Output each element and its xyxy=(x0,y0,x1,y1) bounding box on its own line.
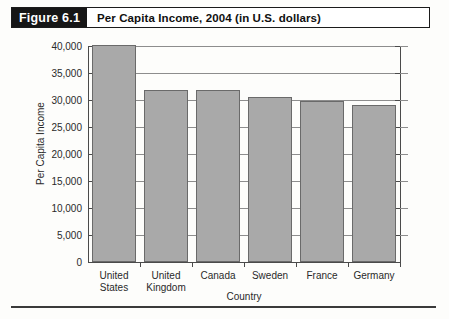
bar xyxy=(352,105,397,262)
chart-area: Per Capita Income 40,00035,00030,00025,0… xyxy=(0,30,449,288)
y-axis-tick-label: 35,000 xyxy=(4,68,82,79)
x-axis-tick-mark xyxy=(296,262,297,267)
figure-caption: Per Capita Income, 2004 (in U.S. dollars… xyxy=(87,8,321,27)
plot-area: 40,00035,00030,00025,00020,00015,00010,0… xyxy=(88,46,400,262)
y-axis-tick-label: 20,000 xyxy=(4,149,82,160)
figure-container: Figure 6.1 Per Capita Income, 2004 (in U… xyxy=(0,0,449,319)
y-axis-tick-label: 25,000 xyxy=(4,122,82,133)
y-axis-tick-mark xyxy=(88,262,93,263)
figure-number-badge: Figure 6.1 xyxy=(12,8,87,27)
figure-bottom-rule xyxy=(11,306,436,308)
x-axis-tick-label: Germany xyxy=(341,270,407,282)
x-axis-tick-mark xyxy=(348,262,349,267)
y-axis-tick-label: 10,000 xyxy=(4,203,82,214)
x-axis-tick-mark xyxy=(244,262,245,267)
x-axis-tick-label-line: Germany xyxy=(341,270,407,282)
x-axis-tick-mark xyxy=(140,262,141,267)
x-axis-tick-mark xyxy=(400,262,401,267)
bar xyxy=(144,90,189,262)
figure-title-bar: Figure 6.1 Per Capita Income, 2004 (in U… xyxy=(11,7,430,28)
bar-series xyxy=(88,46,400,262)
bar xyxy=(92,45,137,262)
bar xyxy=(196,90,241,262)
y-axis-tick-label: 5,000 xyxy=(4,230,82,241)
bar xyxy=(248,97,293,262)
y-axis-tick-label: 40,000 xyxy=(4,41,82,52)
y-axis-tick-label: 15,000 xyxy=(4,176,82,187)
y-axis-tick-label: 30,000 xyxy=(4,95,82,106)
bar xyxy=(300,101,345,262)
x-axis-tick-mark xyxy=(192,262,193,267)
y-axis-tick-label: 0 xyxy=(4,257,82,268)
x-axis-title: Country xyxy=(88,291,400,302)
